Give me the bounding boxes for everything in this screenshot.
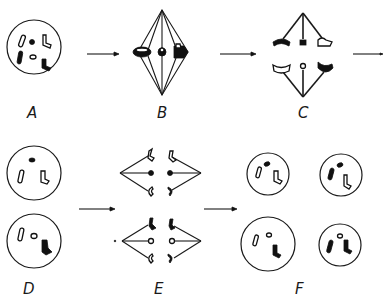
meiosis-diagram: A B C	[0, 0, 387, 300]
stage-e-spindles	[114, 149, 201, 263]
stage-c-anaphase	[273, 13, 333, 97]
arrow-a-to-b	[87, 52, 119, 56]
label-a: A	[26, 104, 37, 122]
arrow-d-to-e	[79, 207, 115, 211]
label-b: B	[157, 104, 167, 122]
label-e: E	[154, 280, 164, 298]
label-c: C	[298, 104, 309, 122]
stage-a-cell	[7, 20, 61, 74]
stage-b-spindle	[133, 10, 188, 95]
label-f: F	[295, 280, 304, 298]
arrow-c-to-next	[353, 53, 383, 55]
arrow-e-to-f	[204, 207, 237, 211]
arrow-b-to-c	[220, 52, 256, 56]
stage-d-cells	[7, 146, 61, 268]
stage-f-cells	[241, 153, 362, 271]
label-d: D	[23, 280, 35, 298]
